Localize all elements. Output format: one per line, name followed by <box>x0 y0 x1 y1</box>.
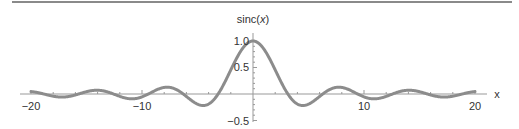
x-tick-label-10: 10 <box>358 100 370 112</box>
sinc-plot: −20 −10 10 20 1.0 0.5 −0.5 sinc(x) x <box>0 0 519 129</box>
x-axis-label: x <box>494 88 500 100</box>
y-ticks <box>253 41 257 121</box>
x-tick-label-neg10: −10 <box>133 100 152 112</box>
y-tick-label-1: 1.0 <box>234 35 249 47</box>
x-tick-label-20: 20 <box>469 100 481 112</box>
y-axis-label: sinc(x) <box>237 13 269 25</box>
x-tick-label-neg20: −20 <box>22 100 41 112</box>
y-tick-label-0-5: 0.5 <box>234 61 249 73</box>
y-tick-label-neg0-5: −0.5 <box>227 115 249 127</box>
axes <box>20 33 487 122</box>
